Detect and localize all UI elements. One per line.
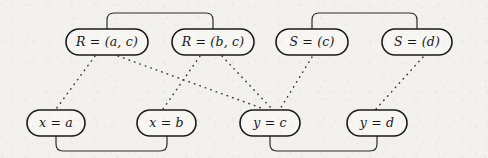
node-label-x-a: x = a [39,115,73,130]
node-label-r-ac: R = (a, c) [75,34,138,49]
node-r-bc[interactable]: R = (b, c) [172,29,254,55]
dotted-edge-r-bc-to-x-b [163,56,200,109]
node-label-y-d: y = d [359,115,394,130]
dotted-edge-s-d-to-y-d [376,57,423,109]
node-s-c[interactable]: S = (c) [276,29,348,55]
node-s-d[interactable]: S = (d) [382,29,452,55]
node-x-a[interactable]: x = a [27,110,85,136]
node-label-s-c: S = (c) [289,34,334,49]
constraint-graph: R = (a, c)R = (b, c)S = (c)S = (d)x = ax… [0,0,488,158]
diagram-canvas: R = (a, c)R = (b, c)S = (c)S = (d)x = ax… [0,0,488,158]
dotted-edge-s-c-to-y-c [280,57,312,109]
node-label-x-b: x = b [149,115,183,130]
node-x-b[interactable]: x = b [137,110,196,136]
node-label-y-c: y = c [252,115,286,130]
node-label-r-bc: R = (b, c) [181,34,245,49]
dotted-edge-r-ac-to-y-c [118,56,264,109]
node-y-d[interactable]: y = d [347,110,407,136]
node-y-c[interactable]: y = c [240,110,300,136]
dotted-edge-r-ac-to-x-a [56,56,95,109]
dotted-edge-r-bc-to-y-c [222,56,272,109]
node-r-ac[interactable]: R = (a, c) [66,29,148,55]
node-label-s-d: S = (d) [394,34,440,49]
